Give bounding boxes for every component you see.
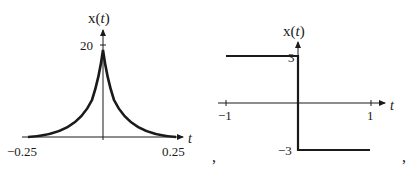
exponential-curve bbox=[28, 50, 176, 137]
chart2-y-tick-label-neg3: −3 bbox=[278, 143, 292, 158]
chart-step: x(t) 3 −3 t −1 1 bbox=[218, 23, 395, 158]
figure: x(t) 20 t −0.25 0.25 , x(t) 3 −3 t −1 1 … bbox=[0, 0, 409, 172]
chart1-y-title: x(t) bbox=[88, 10, 110, 27]
separator-comma-1: , bbox=[212, 148, 216, 165]
chart2-y-title: x(t) bbox=[283, 23, 305, 40]
separator-comma-2: , bbox=[402, 148, 406, 165]
chart2-x-tick-label-neg1: −1 bbox=[218, 108, 232, 123]
chart2-x-tick-label-1: 1 bbox=[367, 108, 374, 123]
chart2-y-tick-label-3: 3 bbox=[288, 50, 295, 65]
chart1-x-tick-label-right: 0.25 bbox=[162, 144, 185, 159]
chart-exponential: x(t) 20 t −0.25 0.25 bbox=[7, 10, 193, 159]
chart1-y-tick-label-20: 20 bbox=[80, 38, 93, 53]
chart1-x-var-label: t bbox=[188, 131, 193, 146]
chart1-x-tick-label-left: −0.25 bbox=[7, 144, 37, 159]
chart2-x-var-label: t bbox=[390, 98, 395, 113]
